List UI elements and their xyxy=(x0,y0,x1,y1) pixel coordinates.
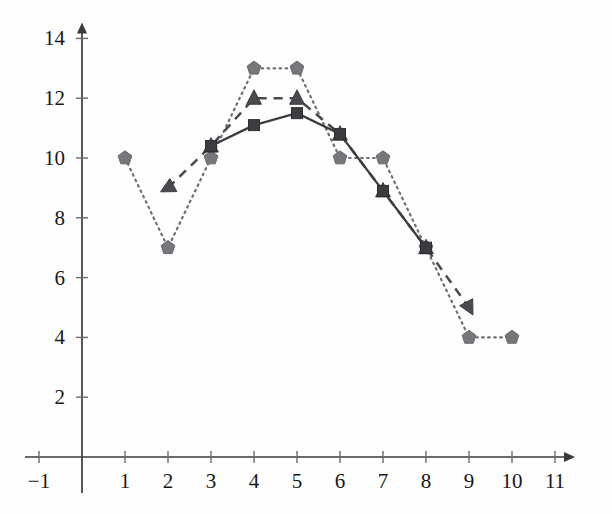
x-tick-label: 8 xyxy=(421,469,432,493)
x-tick-label: 10 xyxy=(502,469,523,493)
y-tick-label: 12 xyxy=(44,86,65,110)
y-tick-label: 14 xyxy=(44,26,66,50)
y-tick-label: 2 xyxy=(55,385,66,409)
x-tick-label: 11 xyxy=(545,469,565,493)
triangle-marker-icon xyxy=(161,179,177,192)
y-tick-label: 10 xyxy=(44,146,65,170)
data-series-group xyxy=(125,68,512,337)
pentagon-marker-icon xyxy=(118,151,132,164)
series-line-pentagon xyxy=(125,68,512,337)
data-markers-group xyxy=(118,61,519,343)
y-tick-label: 4 xyxy=(55,325,66,349)
y-axis-arrow-icon xyxy=(77,22,87,33)
pentagon-marker-icon xyxy=(376,151,390,164)
x-tick-label: 6 xyxy=(335,469,346,493)
x-tick-label: 9 xyxy=(464,469,475,493)
pentagon-marker-icon xyxy=(333,151,347,164)
pentagon-marker-icon xyxy=(505,330,519,343)
pentagon-marker-icon xyxy=(462,330,476,343)
pentagon-marker-icon xyxy=(204,151,218,164)
square-marker-icon xyxy=(335,129,346,140)
square-marker-icon xyxy=(249,120,260,131)
triangle-marker-icon xyxy=(460,299,473,315)
square-marker-icon xyxy=(206,141,217,152)
square-marker-icon xyxy=(421,242,432,253)
chart-canvas: −112345678910112468101214 xyxy=(0,0,612,514)
axes-group xyxy=(25,22,575,493)
square-marker-icon xyxy=(292,108,303,119)
x-tick-label: 1 xyxy=(120,469,131,493)
pentagon-marker-icon xyxy=(247,61,261,74)
y-tick-label: 8 xyxy=(55,206,66,230)
square-marker-icon xyxy=(378,185,389,196)
series-line-square xyxy=(211,113,426,248)
line-chart-figure: −112345678910112468101214 xyxy=(0,0,612,514)
pentagon-marker-icon xyxy=(290,61,304,74)
series-line-triangle xyxy=(168,98,469,307)
x-tick-label: 3 xyxy=(206,469,217,493)
x-tick-label: 4 xyxy=(249,469,260,493)
pentagon-marker-icon xyxy=(161,241,175,254)
x-tick-label: 7 xyxy=(378,469,389,493)
x-tick-label: −1 xyxy=(28,469,50,493)
x-tick-label: 2 xyxy=(163,469,174,493)
y-tick-label: 6 xyxy=(55,266,66,290)
x-tick-label: 5 xyxy=(292,469,303,493)
x-axis-arrow-icon xyxy=(564,452,575,462)
